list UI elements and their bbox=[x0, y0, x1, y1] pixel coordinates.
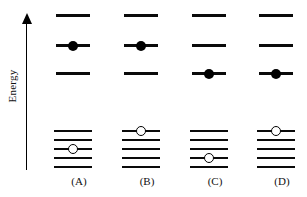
diagram-column-a: (A) bbox=[48, 0, 110, 197]
upper-level-b-3 bbox=[124, 72, 158, 75]
column-caption-b: (B) bbox=[116, 175, 178, 187]
upper-level-d-2 bbox=[259, 44, 293, 47]
lower-level-c-5 bbox=[190, 166, 228, 168]
lower-levels-a bbox=[48, 130, 110, 172]
lower-level-b-3 bbox=[122, 148, 160, 150]
lower-levels-d bbox=[251, 130, 307, 172]
electron-marker-c bbox=[204, 69, 214, 79]
hole-marker-b bbox=[136, 126, 146, 136]
column-caption-c: (C) bbox=[184, 175, 246, 187]
hole-marker-d bbox=[271, 126, 281, 136]
column-caption-a: (A) bbox=[48, 175, 110, 187]
lower-level-c-1 bbox=[190, 130, 228, 132]
energy-axis-label: Energy bbox=[6, 56, 18, 116]
lower-level-d-3 bbox=[257, 148, 295, 150]
lower-level-a-4 bbox=[54, 157, 92, 159]
upper-levels-d bbox=[251, 0, 307, 90]
upper-level-a-1 bbox=[56, 14, 90, 17]
hole-marker-a bbox=[68, 144, 78, 154]
lower-level-d-2 bbox=[257, 139, 295, 141]
upper-level-c-1 bbox=[192, 14, 226, 17]
lower-level-a-1 bbox=[54, 130, 92, 132]
upper-levels-a bbox=[48, 0, 110, 90]
lower-level-a-2 bbox=[54, 139, 92, 141]
electron-marker-a bbox=[68, 41, 78, 51]
lower-levels-c bbox=[184, 130, 246, 172]
energy-level-figure: Energy (A) (B) (C) (D) bbox=[0, 0, 307, 197]
lower-level-b-5 bbox=[122, 166, 160, 168]
upper-levels-b bbox=[116, 0, 178, 90]
diagram-column-d: (D) bbox=[251, 0, 307, 197]
diagram-column-b: (B) bbox=[116, 0, 178, 197]
diagram-column-c: (C) bbox=[184, 0, 246, 197]
lower-level-b-2 bbox=[122, 139, 160, 141]
electron-marker-d bbox=[271, 69, 281, 79]
lower-level-d-5 bbox=[257, 166, 295, 168]
lower-level-c-2 bbox=[190, 139, 228, 141]
lower-level-c-3 bbox=[190, 148, 228, 150]
upper-level-a-3 bbox=[56, 72, 90, 75]
upper-levels-c bbox=[184, 0, 246, 90]
lower-level-b-4 bbox=[122, 157, 160, 159]
axis-shaft bbox=[26, 22, 27, 170]
lower-level-a-5 bbox=[54, 166, 92, 168]
upper-level-b-1 bbox=[124, 14, 158, 17]
column-caption-d: (D) bbox=[251, 175, 307, 187]
lower-levels-b bbox=[116, 130, 178, 172]
upper-level-d-1 bbox=[259, 14, 293, 17]
electron-marker-b bbox=[136, 41, 146, 51]
upper-level-c-2 bbox=[192, 44, 226, 47]
hole-marker-c bbox=[204, 153, 214, 163]
energy-axis: Energy bbox=[0, 0, 45, 197]
lower-level-d-4 bbox=[257, 157, 295, 159]
